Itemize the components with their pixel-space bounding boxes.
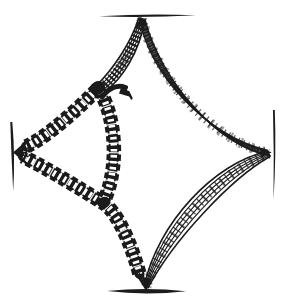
crosshatch-texture: [143, 19, 269, 153]
thread-strand: [144, 20, 270, 155]
thread-strand: [148, 156, 270, 288]
bottom-right-string-bundle: [145, 152, 271, 289]
left-bar: [10, 122, 14, 192]
upper-left-braided-cord: [26, 90, 97, 147]
bottom-bar: [107, 289, 186, 293]
apex-rope-bundle: [97, 18, 145, 92]
string-figure-drawing: [0, 0, 286, 307]
thread-strand: [146, 153, 269, 287]
lower-left-braided-cord: [23, 157, 140, 275]
right-bar: [273, 110, 275, 200]
thread-strand: [141, 18, 268, 152]
thread-strand: [146, 154, 269, 287]
crosshatch-texture: [143, 19, 269, 153]
thread-strand: [140, 18, 268, 151]
thread-strand: [145, 152, 268, 286]
hook-tip-flick: [129, 92, 132, 99]
top-bar: [99, 14, 196, 17]
top-right-string-bundle: [140, 18, 270, 156]
crosshatch-texture: [146, 154, 269, 287]
thread-strand: [148, 157, 270, 289]
engraving-page: [0, 0, 286, 307]
middle-vertical-braided-cord: [101, 92, 114, 200]
thread-strand: [145, 20, 270, 156]
thread-strand: [142, 19, 269, 153]
crosshatch-texture: [146, 154, 269, 287]
thread-strand: [143, 19, 269, 154]
thread-strand: [147, 155, 270, 288]
braid-bumps-layer: [23, 157, 140, 275]
